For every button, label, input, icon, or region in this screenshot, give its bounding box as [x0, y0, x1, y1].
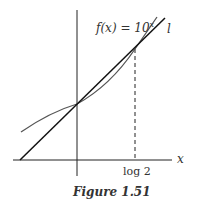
x-axis-label: x: [177, 152, 184, 166]
line-label: l: [167, 22, 171, 36]
secant-line-l: [20, 18, 165, 160]
diagram: f(x) = 10x l x log 2 Figure 1.51: [0, 0, 199, 202]
function-label: f(x) = 10x: [95, 20, 155, 35]
log2-tick-label: log 2: [123, 165, 151, 178]
figure-caption: Figure 1.51: [72, 185, 151, 199]
figure-container: f(x) = 10x l x log 2 Figure 1.51: [0, 0, 199, 202]
